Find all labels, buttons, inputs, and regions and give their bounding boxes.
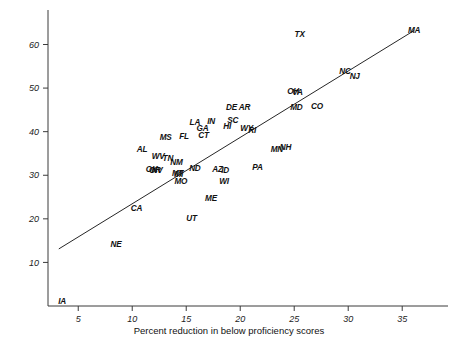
y-tick-label: 10 (29, 258, 39, 268)
data-point-label-mo: MO (174, 177, 188, 186)
x-tick-label: 20 (234, 314, 245, 324)
data-point-label-ct: CT (198, 131, 210, 140)
y-tick-label: 50 (29, 83, 39, 93)
data-point-label-ms: MS (160, 133, 173, 142)
x-axis-title: Percent reduction in below proficiency s… (134, 325, 325, 336)
regression-line-group (59, 31, 414, 249)
data-point-label-ut: UT (186, 214, 198, 223)
data-point-label-wi: WI (219, 177, 230, 186)
data-point-label-nm: NM (170, 158, 183, 167)
data-point-label-co: CO (311, 102, 324, 111)
data-point-label-nd: ND (189, 164, 201, 173)
y-tick-label: 20 (28, 214, 39, 224)
data-point-label-ia: IA (58, 297, 66, 306)
regression-line (59, 31, 414, 249)
data-point-label-id: ID (221, 166, 229, 175)
data-point-label-in: IN (207, 117, 216, 126)
data-point-label-tx: TX (295, 30, 306, 39)
x-tick-label: 30 (343, 314, 353, 324)
y-tick-label: 30 (29, 170, 39, 180)
data-point-label-de: DE (226, 103, 238, 112)
data-point-label-nj: NJ (350, 72, 361, 81)
data-point-label-ri: RI (248, 126, 257, 135)
data-point-label-nv: NV (152, 166, 165, 175)
data-point-label-nh: NH (280, 143, 293, 152)
data-point-label-me: ME (205, 194, 218, 203)
x-tick-label: 35 (397, 314, 408, 324)
data-point-label-al: AL (136, 145, 148, 154)
data-point-label-sc: SC (227, 116, 239, 125)
data-point-label-md: MD (290, 103, 303, 112)
data-point-label-pa: PA (252, 163, 263, 172)
x-tick-label: 5 (76, 314, 82, 324)
plot-canvas: 5101520253035102030405060 IANECAALMSWVOK… (0, 0, 459, 349)
data-point-label-ma: MA (408, 26, 421, 35)
data-point-label-va: VA (292, 88, 303, 97)
axes-group (48, 10, 448, 306)
x-tick-label: 10 (127, 314, 137, 324)
data-point-label-ar: AR (238, 103, 251, 112)
x-tick-label: 15 (181, 314, 192, 324)
y-tick-label: 60 (29, 40, 39, 50)
x-tick-label: 25 (288, 314, 300, 324)
data-point-labels-group: IANECAALMSWVOKORNVTNNMMTMIMOFLUTLANDGACT… (58, 26, 420, 306)
data-point-label-ca: CA (131, 204, 143, 213)
data-point-label-ne: NE (111, 240, 123, 249)
scatter-plot-figure: 5101520253035102030405060 IANECAALMSWVOK… (0, 0, 459, 349)
y-tick-label: 40 (29, 127, 39, 137)
tick-labels-group: 5101520253035102030405060 (28, 40, 408, 324)
data-point-label-fl: FL (179, 132, 189, 141)
